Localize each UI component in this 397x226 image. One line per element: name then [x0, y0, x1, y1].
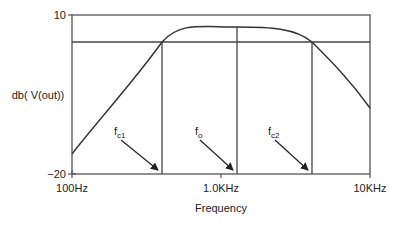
x-tick-label-100hz: 100Hz — [56, 182, 88, 194]
fo-label: fo — [195, 125, 203, 140]
fo-arrow — [200, 140, 233, 170]
fc2-label: fc2 — [268, 125, 280, 140]
bode-plot: fc1 fo fc2 10 −20 100Hz 1.0KHz 10KHz Fre… — [0, 0, 397, 226]
fc2-arrow — [275, 140, 308, 170]
plot-frame — [72, 15, 370, 174]
x-tick-label-1khz: 1.0KHz — [203, 182, 239, 194]
x-axis-title: Frequency — [195, 202, 247, 214]
y-tick-label-bottom: −20 — [47, 168, 66, 180]
fc1-arrow — [121, 140, 158, 170]
y-tick-label-top: 10 — [54, 9, 66, 21]
x-tick-label-10khz: 10KHz — [353, 182, 386, 194]
y-axis-title: db( V(out)) — [12, 89, 65, 101]
fc1-label: fc1 — [114, 125, 126, 140]
